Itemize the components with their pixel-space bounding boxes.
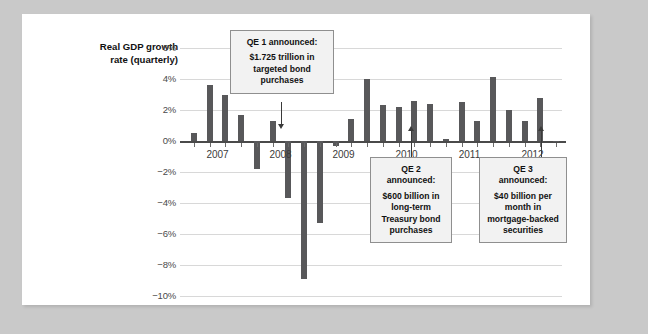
y-tick-label-wrap: 0%: [130, 135, 176, 147]
x-quarter-tick: [210, 143, 211, 147]
bar: [490, 77, 496, 141]
annotation-qe3-body-3: mortgage-backed: [485, 214, 561, 225]
annotation-qe1-body-2: targeted bond: [236, 64, 328, 75]
y-tick-label: −2%: [134, 166, 176, 177]
x-quarter-tick: [414, 143, 415, 147]
x-quarter-tick: [509, 143, 510, 147]
x-quarter-tick: [399, 143, 400, 147]
bar: [238, 115, 244, 141]
x-quarter-tick: [446, 143, 447, 147]
bar: [396, 107, 402, 141]
gridline: [180, 296, 562, 297]
y-tick-label-wrap: −6%: [130, 228, 176, 240]
bar: [191, 133, 197, 141]
annotation-qe3-arrow-icon: [538, 126, 544, 131]
bar: [301, 141, 307, 279]
bar: [474, 121, 480, 141]
annotation-qe3-body-4: securities: [485, 225, 561, 236]
annotation-qe2-arrow-icon: [408, 126, 414, 131]
chart-card: Real GDP growth rate (quarterly) 6%4%2%0…: [22, 14, 590, 305]
x-quarter-tick: [556, 143, 557, 147]
screenshot-frame: Real GDP growth rate (quarterly) 6%4%2%0…: [0, 0, 648, 334]
bar: [553, 141, 559, 142]
bar: [522, 121, 528, 141]
annotation-qe3-heading-2: announced:: [485, 175, 561, 186]
annotation-qe1-body-3: purchases: [236, 75, 328, 86]
x-quarter-tick: [383, 143, 384, 147]
y-tick-label-wrap: 2%: [130, 104, 176, 116]
annotation-qe3-body-1: $40 billion per: [485, 191, 561, 202]
y-tick-label: 2%: [134, 104, 176, 115]
x-quarter-tick: [351, 143, 352, 147]
x-year-label: 2009: [324, 149, 364, 160]
x-quarter-tick: [430, 143, 431, 147]
x-quarter-tick: [525, 143, 526, 147]
y-tick-label-wrap: −8%: [130, 259, 176, 271]
y-tick-label: 6%: [134, 42, 176, 53]
x-quarter-tick: [367, 143, 368, 147]
x-quarter-tick: [493, 143, 494, 147]
y-tick-label-wrap: 4%: [130, 73, 176, 85]
bar: [348, 119, 354, 141]
y-tick-label: 0%: [134, 135, 176, 146]
x-quarter-tick: [336, 143, 337, 147]
annotation-qe2-body-1: $600 billion in: [376, 191, 446, 202]
annotation-qe3-heading-1: QE 3: [485, 164, 561, 175]
annotation-qe2: QE 2 announced: $600 billion in long-ter…: [370, 157, 452, 243]
y-tick-label: −10%: [134, 290, 176, 301]
x-quarter-tick: [257, 143, 258, 147]
x-quarter-tick: [273, 143, 274, 147]
bar: [270, 121, 276, 141]
annotation-qe2-body-3: Treasury bond: [376, 214, 446, 225]
y-tick-label: −6%: [134, 228, 176, 239]
bar: [380, 105, 386, 141]
annotation-qe1-body-1: $1.725 trillion in: [236, 52, 328, 63]
annotation-qe2-heading-1: QE 2: [376, 164, 446, 175]
y-tick-label-wrap: −2%: [130, 166, 176, 178]
y-tick-label-wrap: 6%: [130, 42, 176, 54]
bar: [506, 110, 512, 141]
y-tick-label: −4%: [134, 197, 176, 208]
annotation-qe1: QE 1 announced: $1.725 trillion in targe…: [230, 30, 334, 94]
bar: [443, 139, 449, 141]
annotation-qe3-body-2: month in: [485, 202, 561, 213]
annotation-qe3: QE 3 announced: $40 billion per month in…: [479, 157, 567, 243]
annotation-qe2-leader: [411, 131, 412, 157]
bar: [222, 95, 228, 142]
x-year-label: 2008: [261, 149, 301, 160]
y-tick-label: 4%: [134, 73, 176, 84]
x-quarter-tick: [477, 143, 478, 147]
x-quarter-tick: [241, 143, 242, 147]
x-quarter-tick: [194, 143, 195, 147]
y-axis-title-line2: rate (quarterly): [110, 54, 178, 65]
gdp-growth-bar-chart: Real GDP growth rate (quarterly) 6%4%2%0…: [22, 14, 590, 305]
bar: [427, 104, 433, 141]
annotation-qe2-body-2: long-term: [376, 202, 446, 213]
annotation-qe1-heading: QE 1 announced:: [236, 37, 328, 48]
x-year-label: 2007: [198, 149, 238, 160]
annotation-qe1-arrow-icon: [278, 124, 284, 129]
annotation-qe2-heading-2: announced:: [376, 175, 446, 186]
x-quarter-tick: [288, 143, 289, 147]
annotation-qe3-leader: [541, 131, 542, 157]
bar: [364, 79, 370, 141]
gridline: [180, 265, 562, 266]
y-tick-label-wrap: −10%: [130, 290, 176, 302]
x-quarter-tick: [320, 143, 321, 147]
bar: [459, 102, 465, 141]
x-quarter-tick: [225, 143, 226, 147]
y-tick-label: −8%: [134, 259, 176, 270]
bar: [207, 85, 213, 141]
y-tick-label-wrap: −4%: [130, 197, 176, 209]
annotation-qe2-body-4: purchases: [376, 225, 446, 236]
gridline: [180, 110, 562, 111]
x-quarter-tick: [304, 143, 305, 147]
bar: [317, 141, 323, 223]
x-quarter-tick: [462, 143, 463, 147]
annotation-qe1-leader: [281, 102, 282, 126]
bar: [411, 101, 417, 141]
